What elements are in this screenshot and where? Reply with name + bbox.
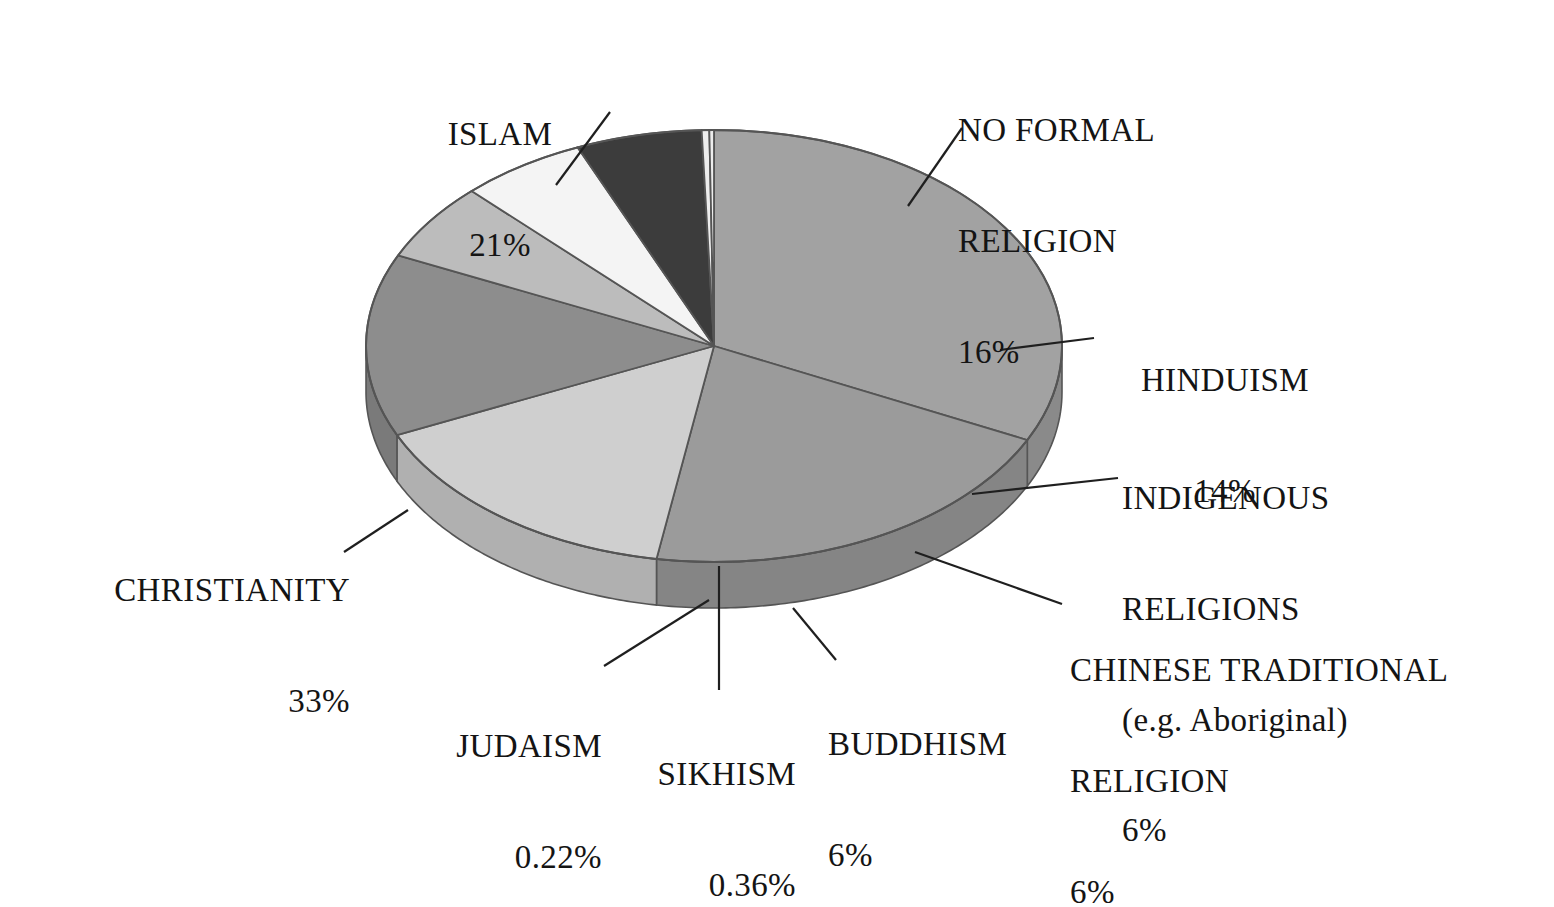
pie-label-islam-name: ISLAM <box>380 116 620 153</box>
pie-label-christianity: CHRISTIANITY 33% <box>60 498 350 794</box>
pie-label-sikhism-pct: 0.36% <box>596 867 796 904</box>
pie-label-islam: ISLAM 21% <box>380 42 620 338</box>
leader-line-judaism <box>604 600 709 666</box>
pie-label-judaism-name: JUDAISM <box>392 728 602 765</box>
pie-label-islam-pct: 21% <box>380 227 620 264</box>
pie-label-chinese-traditional-religion-line2: RELIGION <box>1070 763 1510 800</box>
leader-line-christianity <box>344 510 408 552</box>
pie-label-buddhism-pct: 6% <box>828 837 1058 874</box>
pie-label-sikhism-name: SIKHISM <box>596 756 796 793</box>
pie-label-no-formal-religion-line2: RELIGION <box>958 223 1288 260</box>
pie-label-christianity-name: CHRISTIANITY <box>60 572 350 609</box>
pie-label-sikhism: SIKHISM 0.36% <box>596 682 796 907</box>
pie-label-buddhism-name: BUDDHISM <box>828 726 1058 763</box>
pie-label-christianity-pct: 33% <box>60 683 350 720</box>
pie-label-no-formal-religion-line1: NO FORMAL <box>958 112 1288 149</box>
pie-label-chinese-traditional-religion: CHINESE TRADITIONAL RELIGION 6% <box>1070 578 1510 907</box>
pie-label-hinduism-name: HINDUISM <box>1090 362 1360 399</box>
pie-label-buddhism: BUDDHISM 6% <box>828 652 1058 907</box>
pie-label-judaism-pct: 0.22% <box>392 839 602 876</box>
pie-label-indigenous-religions-line1: INDIGENOUS <box>1122 480 1442 517</box>
pie-label-judaism: JUDAISM 0.22% <box>392 654 602 907</box>
pie-label-chinese-traditional-religion-line1: CHINESE TRADITIONAL <box>1070 652 1510 689</box>
leader-line-chinese <box>915 552 1062 604</box>
pie-label-chinese-traditional-religion-pct: 6% <box>1070 874 1510 907</box>
